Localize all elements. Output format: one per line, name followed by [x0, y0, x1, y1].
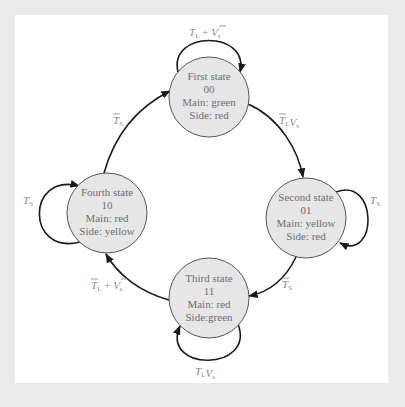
label-first-to-second: TLVs [279, 114, 299, 130]
node-title: Second state [278, 191, 333, 203]
edge-third-to-fourth [106, 254, 169, 300]
node-code: 11 [204, 285, 215, 297]
svg-text:TS: TS [23, 194, 33, 208]
state-node-second: Second state 01 Main: yellow Side: red [266, 178, 346, 258]
node-main: Main: yellow [277, 217, 336, 229]
node-code: 10 [102, 199, 114, 211]
svg-text:TLVs: TLVs [279, 114, 299, 130]
state-node-first: First state 00 Main: green Side: red [169, 57, 249, 137]
state-node-third: Third state 11 Main: red Side:green [169, 258, 249, 338]
svg-text:TL + Vs: TL + Vs [91, 279, 123, 293]
node-main: Main: green [182, 96, 236, 108]
node-main: Main: red [85, 212, 129, 224]
svg-text:TS: TS [282, 278, 292, 292]
node-side: Side: red [286, 230, 326, 242]
label-second-to-third: TS [282, 278, 292, 292]
label-second-self-loop: TS [370, 194, 380, 208]
node-side: Side: red [189, 109, 229, 121]
node-code: 00 [204, 83, 216, 95]
node-main: Main: red [187, 298, 231, 310]
edge-first-to-second [248, 104, 303, 177]
node-title: First state [187, 70, 230, 82]
label-fourth-self-loop: TS [23, 194, 33, 208]
state-node-fourth: Fourth state 10 Main: red Side: yellow [67, 173, 147, 253]
node-title: Third state [185, 272, 232, 284]
label-third-self-loop: TLVs [195, 365, 215, 381]
svg-text:TS: TS [370, 194, 380, 208]
svg-text:TS: TS [113, 114, 123, 128]
edge-fourth-to-first [104, 91, 170, 173]
node-title: Fourth state [81, 186, 133, 198]
node-code: 01 [301, 204, 312, 216]
svg-text:TL + Vs: TL + Vs [189, 26, 221, 40]
label-fourth-to-first: TS [113, 114, 123, 128]
label-third-to-fourth: TL + Vs [91, 279, 128, 293]
state-diagram: First state 00 Main: green Side: red Sec… [0, 0, 405, 407]
svg-text:TLVs: TLVs [195, 365, 215, 381]
node-side: Side:green [185, 311, 233, 323]
label-first-self-loop: TL + Vs [189, 26, 226, 40]
node-side: Side: yellow [79, 225, 134, 237]
